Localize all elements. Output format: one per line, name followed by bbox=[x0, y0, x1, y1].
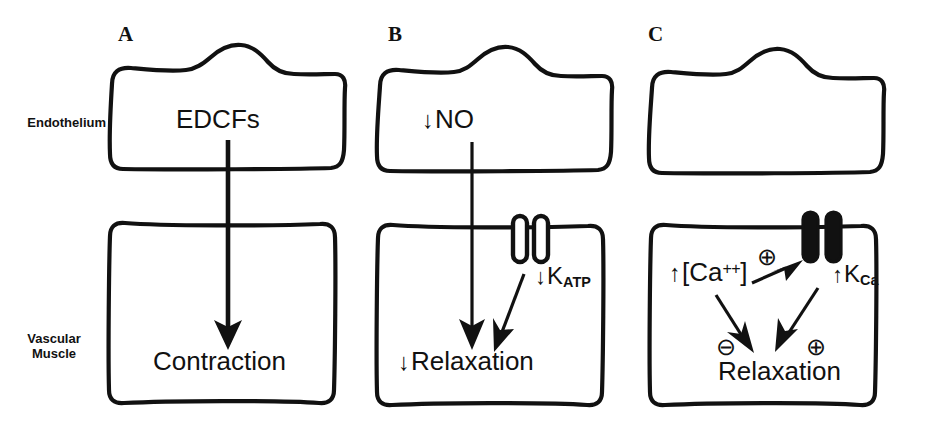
row-label-vascular-muscle-line2: Muscle bbox=[2, 346, 106, 361]
panel-b-katp-channel-right bbox=[534, 216, 548, 262]
panel-c-calcium-arrow-glyph: ↑ bbox=[669, 260, 680, 286]
panel-c-kca-channel-right bbox=[826, 212, 841, 262]
figure-canvas: Endothelium Vascular Muscle A B C EDCFs … bbox=[0, 0, 929, 434]
panel-b-muscle-label-text: Relaxation bbox=[411, 346, 534, 376]
panel-c-channel-arrow-glyph: ↑ bbox=[832, 263, 842, 287]
panel-c-sign-positive-relaxation: ⊕ bbox=[806, 334, 826, 360]
panel-b-muscle-shape bbox=[377, 225, 604, 405]
panel-b-channel-arrow-glyph: ↓ bbox=[535, 265, 545, 289]
panel-c-calcium-text: [Ca bbox=[682, 257, 722, 287]
panel-b-channel-label: ↓KATP bbox=[535, 263, 591, 291]
panel-a-muscle-shape bbox=[109, 223, 336, 403]
panel-b-muscle-label: ↓Relaxation bbox=[398, 347, 534, 375]
panel-letter-b: B bbox=[388, 23, 402, 46]
panel-a-muscle-label: Contraction bbox=[153, 347, 286, 375]
panel-c-calcium-superscript: ++ bbox=[722, 259, 740, 277]
panel-c-sign-negative-relaxation: ⊖ bbox=[716, 334, 736, 360]
panel-b-endothelium-label-text: NO bbox=[435, 104, 474, 134]
panel-c-sign-positive-channel: ⊕ bbox=[757, 244, 777, 270]
panel-c-channel-label: ↑KCa bbox=[832, 261, 878, 289]
panel-b-endothelium-shape bbox=[377, 47, 612, 172]
panel-letter-a: A bbox=[118, 23, 133, 46]
panel-b-channel-label-subscript: ATP bbox=[563, 274, 591, 290]
row-label-vascular-muscle-line1: Vascular bbox=[2, 331, 106, 346]
panel-letter-c: C bbox=[648, 23, 663, 46]
panel-b-katp-channel-left bbox=[513, 216, 527, 262]
panel-b-endothelium-arrow-glyph: ↓ bbox=[422, 107, 433, 133]
panel-c-calcium-label: ↑[Ca++] bbox=[669, 258, 747, 286]
panel-a-endothelium-label: EDCFs bbox=[176, 105, 260, 133]
row-label-endothelium: Endothelium bbox=[2, 116, 106, 130]
panel-c-endothelium-shape bbox=[649, 49, 884, 174]
panel-b-channel-label-text: K bbox=[547, 262, 563, 289]
panel-c-calcium-suffix: ] bbox=[740, 257, 747, 287]
row-label-vascular-muscle: Vascular Muscle bbox=[2, 331, 106, 361]
panel-c-channel-label-text: K bbox=[844, 260, 860, 287]
panel-b-endothelium-label: ↓NO bbox=[422, 105, 474, 133]
panel-c-kca-channel-left bbox=[803, 212, 818, 262]
panel-c-channel-label-subscript: Ca bbox=[860, 272, 878, 288]
panel-c-muscle-label: Relaxation bbox=[718, 357, 841, 385]
panel-b-muscle-arrow-glyph: ↓ bbox=[398, 349, 409, 375]
